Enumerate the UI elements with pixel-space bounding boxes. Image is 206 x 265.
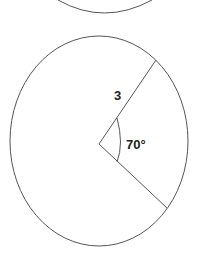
- sector-diagram: 3 70°: [0, 0, 206, 265]
- main-circle: [10, 36, 188, 246]
- angle-arc: [117, 118, 121, 162]
- angle-label: 70°: [126, 137, 146, 152]
- top-partial-circle-arc: [58, 0, 152, 13]
- radius-lower: [99, 144, 167, 208]
- radius-upper: [99, 60, 156, 144]
- radius-label: 3: [114, 88, 121, 103]
